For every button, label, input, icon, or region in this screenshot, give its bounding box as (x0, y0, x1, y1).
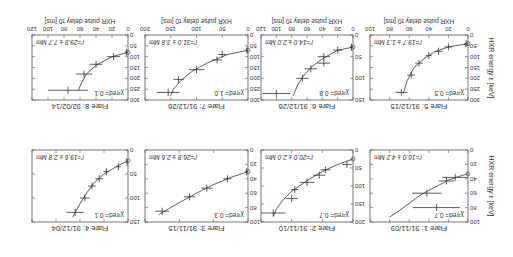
panel-title: Flare 5: 91/12/15 (391, 102, 448, 111)
data-point (245, 168, 248, 175)
y-tick-label: 150 (129, 65, 140, 71)
y-tick-label: 150 (249, 65, 260, 71)
y-tick-label: 100 (469, 219, 480, 225)
panel-flare-8: Flare 8: 92/02/14020406080100120HXR puls… (26, 17, 140, 111)
data-point (313, 172, 325, 179)
y-tick-label: 80 (469, 205, 476, 211)
x-tick-label: 100 (42, 26, 53, 32)
x-tick-label: 60 (303, 26, 310, 32)
y-tick-label: 0 (249, 147, 253, 153)
y-tick-label: 100 (249, 54, 260, 60)
panel-flare-5: Flare 5: 91/12/15020406080100HXR pulse d… (364, 17, 480, 111)
y-tick-label: 0 (249, 32, 253, 38)
data-point (426, 52, 432, 59)
chi-square-label: χ²red= 0.8 (319, 89, 349, 97)
y-tick-label: 250 (469, 86, 480, 92)
panel-flare-7: Flare 7: 91/12/26050100150200HXR pulse d… (139, 17, 260, 111)
chi-square-label: χ²red= 0.5 (434, 89, 464, 97)
data-point (296, 75, 308, 82)
fit-curve (390, 174, 468, 217)
y-tick-label: 200 (354, 219, 365, 225)
y-tick-label: 250 (249, 86, 260, 92)
data-point (90, 61, 103, 68)
x-tick-label: 150 (165, 26, 176, 32)
x-tick-label: 120 (26, 26, 37, 32)
fit-curve (293, 47, 353, 96)
data-point (157, 89, 180, 96)
chi-square-label: χ²red= 0.3 (214, 211, 244, 219)
x-tick-label: 40 (92, 26, 99, 32)
chi-square-label: χ²red= 0.7 (319, 211, 349, 219)
x-tick-label: 60 (76, 26, 83, 32)
data-point (305, 65, 317, 72)
data-point (333, 47, 342, 54)
y-tick-label: 0 (469, 147, 473, 153)
y-tick-label: 100 (354, 75, 365, 81)
panel-flare-3: Flare 3: 91/11/15020406080100l'=26.8 ± 2… (145, 147, 260, 233)
y-tick-label: 0 (354, 32, 358, 38)
fit-length-label: l'=26.8 ± 2.6 Mm (148, 154, 197, 161)
y-tick-label: 60 (469, 190, 476, 196)
y-tick-label: 200 (469, 75, 480, 81)
chi-square-label: χ²red= 0.1 (94, 211, 124, 219)
fit-length-label: l'=29.8 ± 7.7 Mm (35, 39, 84, 46)
fit-curve (73, 161, 128, 218)
data-point (218, 51, 226, 58)
fit-curve (171, 50, 248, 96)
data-point (444, 43, 452, 50)
x-tick-label: 40 (318, 26, 325, 32)
y-tick-label: 0 (469, 32, 473, 38)
data-point (395, 89, 407, 96)
panel-flare-6: Flare 6: 91/12/26020406080100120HXR puls… (255, 17, 365, 111)
fit-curve (273, 159, 353, 217)
x-tick-label: 100 (191, 26, 202, 32)
y-tick-label: 100 (129, 195, 140, 201)
x-tick-label: 50 (218, 26, 225, 32)
panel-title: Flare 7: 91/12/26 (168, 102, 225, 111)
fit-curve (78, 52, 128, 90)
y-tick-label: 200 (249, 75, 260, 81)
chi-square-label: χ²red= 0.7 (434, 211, 464, 219)
y-tick-label: 150 (469, 65, 480, 71)
x-tick-label: 120 (255, 26, 266, 32)
data-point (342, 161, 352, 168)
fit-length-label: l'=16.0 ± 4.2 Mm (373, 154, 422, 161)
panel-flare-2: Flare 2: 91/11/10050100150200l'=20.0 ± 2… (261, 147, 365, 233)
data-point (125, 49, 128, 56)
panel-title: Flare 3: 91/11/15 (168, 224, 224, 233)
x-tick-label: 200 (139, 26, 150, 32)
panel-title: Flare 8: 92/02/14 (52, 102, 109, 111)
y-tick-label: 20 (249, 161, 256, 167)
y-tick-label: 150 (354, 97, 365, 103)
figure-canvas: HXR energy ε [keV] HXR energy ε [keV] Fl… (0, 0, 513, 257)
y-tick-label: 100 (469, 54, 480, 60)
y-tick-label: 200 (129, 75, 140, 81)
x-axis-label: HXR pulse delay τ0 [ms] (45, 17, 116, 25)
data-point (67, 209, 84, 216)
x-tick-label: 20 (108, 26, 115, 32)
data-point (48, 87, 88, 94)
data-point (435, 48, 443, 55)
y-tick-label: 100 (354, 183, 365, 189)
x-tick-label: 80 (60, 26, 67, 32)
x-tick-label: 80 (288, 26, 295, 32)
data-point (413, 204, 460, 211)
x-tick-label: 100 (364, 26, 375, 32)
y-tick-label: 80 (249, 205, 256, 211)
data-point (173, 76, 183, 83)
data-point (350, 44, 353, 51)
fit-length-label: l'=31.0 ± 3.8 Mm (148, 39, 197, 46)
fit-length-label: l'=19.7 ± 1.3 Mm (373, 39, 422, 46)
y-tick-label: 300 (129, 97, 140, 103)
fit-length-label: l'=19.6 ± 2.8 Mm (35, 154, 84, 161)
panel-title: Flare 4: 91/12/04 (52, 224, 109, 233)
y-tick-label: 0 (354, 147, 358, 153)
x-axis-label: HXR pulse delay τ0 [ms] (384, 17, 455, 25)
y-axis-label-row1: HXR energy ε [keV] (487, 155, 495, 216)
panel-flare-1: Flare 1: 91/11/09020406080100l'=16.0 ± 4… (370, 147, 480, 233)
y-tick-label: 50 (354, 54, 361, 60)
x-tick-label: 20 (334, 26, 341, 32)
data-point (263, 90, 291, 97)
panel-title: Flare 1: 91/11/09 (391, 224, 447, 233)
chi-square-label: χ²red= 0.1 (94, 89, 124, 97)
